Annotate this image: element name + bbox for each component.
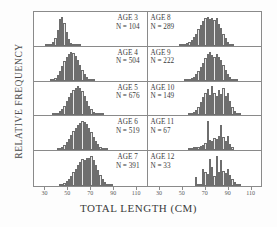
panel-n-text: N = 67 [151, 127, 175, 136]
panel-age-text: AGE 8 [151, 14, 175, 23]
x-tick-label: 90 [225, 190, 231, 196]
panel-age-text: AGE 9 [151, 49, 175, 58]
panel-label-age7: AGE 7 N = 391 [116, 153, 140, 170]
histogram-bar [102, 113, 104, 115]
panel-age7: AGE 7 N = 391 [34, 151, 148, 186]
panel-age-text: AGE 12 [151, 153, 175, 162]
x-tick-label: 30 [156, 190, 162, 196]
panel-age3: AGE 3 N = 104 [34, 12, 148, 47]
panel-n-text: N = 289 [151, 23, 175, 32]
panel-label-age11: AGE 11 N = 67 [151, 118, 175, 135]
panel-label-age8: AGE 8 N = 289 [151, 14, 175, 31]
histogram-bar [238, 113, 240, 115]
panel-n-text: N = 391 [116, 162, 140, 171]
panel-age12: AGE 12 N = 33 [148, 151, 262, 186]
panel-n-text: N = 149 [151, 92, 175, 101]
panel-age-text: AGE 7 [116, 153, 140, 162]
panel-n-text: N = 504 [116, 57, 140, 66]
panel-n-text: N = 104 [116, 23, 140, 32]
histogram-bar [236, 79, 238, 81]
panel-label-age6: AGE 6 N = 519 [116, 118, 140, 135]
panel-n-text: N = 33 [151, 162, 175, 171]
histogram-bar [111, 184, 113, 186]
x-tick-label: 50 [64, 190, 70, 196]
panel-age11: AGE 11 N = 67 [148, 116, 262, 151]
panel-age-text: AGE 5 [116, 84, 140, 93]
histogram-bar [106, 148, 108, 150]
x-tick-label: 70 [87, 190, 93, 196]
x-tick-label: 50 [179, 190, 185, 196]
x-axis-label: TOTAL LENGTH (CM) [0, 202, 277, 214]
histogram-bar [231, 147, 233, 150]
panel-n-text: N = 519 [116, 127, 140, 136]
x-tick-label: 90 [110, 190, 116, 196]
panel-age9: AGE 9 N = 222 [148, 47, 262, 82]
panel-label-age9: AGE 9 N = 222 [151, 49, 175, 66]
x-tick-label: 110 [132, 190, 141, 196]
histogram-bar [79, 44, 81, 46]
panel-age-text: AGE 3 [116, 14, 140, 23]
panel-label-age4: AGE 4 N = 504 [116, 49, 140, 66]
panel-n-text: N = 676 [116, 92, 140, 101]
panel-age-text: AGE 6 [116, 118, 140, 127]
panel-age5: AGE 5 N = 676 [34, 82, 148, 117]
x-axis-right: 30507090110 [148, 187, 263, 201]
panel-label-age3: AGE 3 N = 104 [116, 14, 140, 31]
panel-n-text: N = 222 [151, 57, 175, 66]
panel-age4: AGE 4 N = 504 [34, 47, 148, 82]
x-tick-label: 110 [246, 190, 255, 196]
histogram-bar [231, 44, 233, 46]
panel-label-age5: AGE 5 N = 676 [116, 84, 140, 101]
x-tick-label: 70 [202, 190, 208, 196]
panel-age-text: AGE 4 [116, 49, 140, 58]
panel-age6: AGE 6 N = 519 [34, 116, 148, 151]
y-axis-label: RELATIVE FREQUENCY [14, 13, 24, 189]
x-axis-left: 30507090110 [33, 187, 148, 201]
panel-age-text: AGE 11 [151, 118, 175, 127]
histogram-bar [238, 184, 240, 186]
panel-age8: AGE 8 N = 289 [148, 12, 262, 47]
panel-age-text: AGE 10 [151, 84, 175, 93]
x-tick-label: 30 [41, 190, 47, 196]
histogram-figure: RELATIVE FREQUENCY AGE 3 N = 104 AGE 8 N… [0, 0, 277, 227]
panel-age10: AGE 10 N = 149 [148, 82, 262, 117]
panel-label-age12: AGE 12 N = 33 [151, 153, 175, 170]
histogram-bar [93, 79, 95, 81]
panel-label-age10: AGE 10 N = 149 [151, 84, 175, 101]
panel-grid: AGE 3 N = 104 AGE 8 N = 289 AGE 4 N = 50… [33, 11, 262, 187]
